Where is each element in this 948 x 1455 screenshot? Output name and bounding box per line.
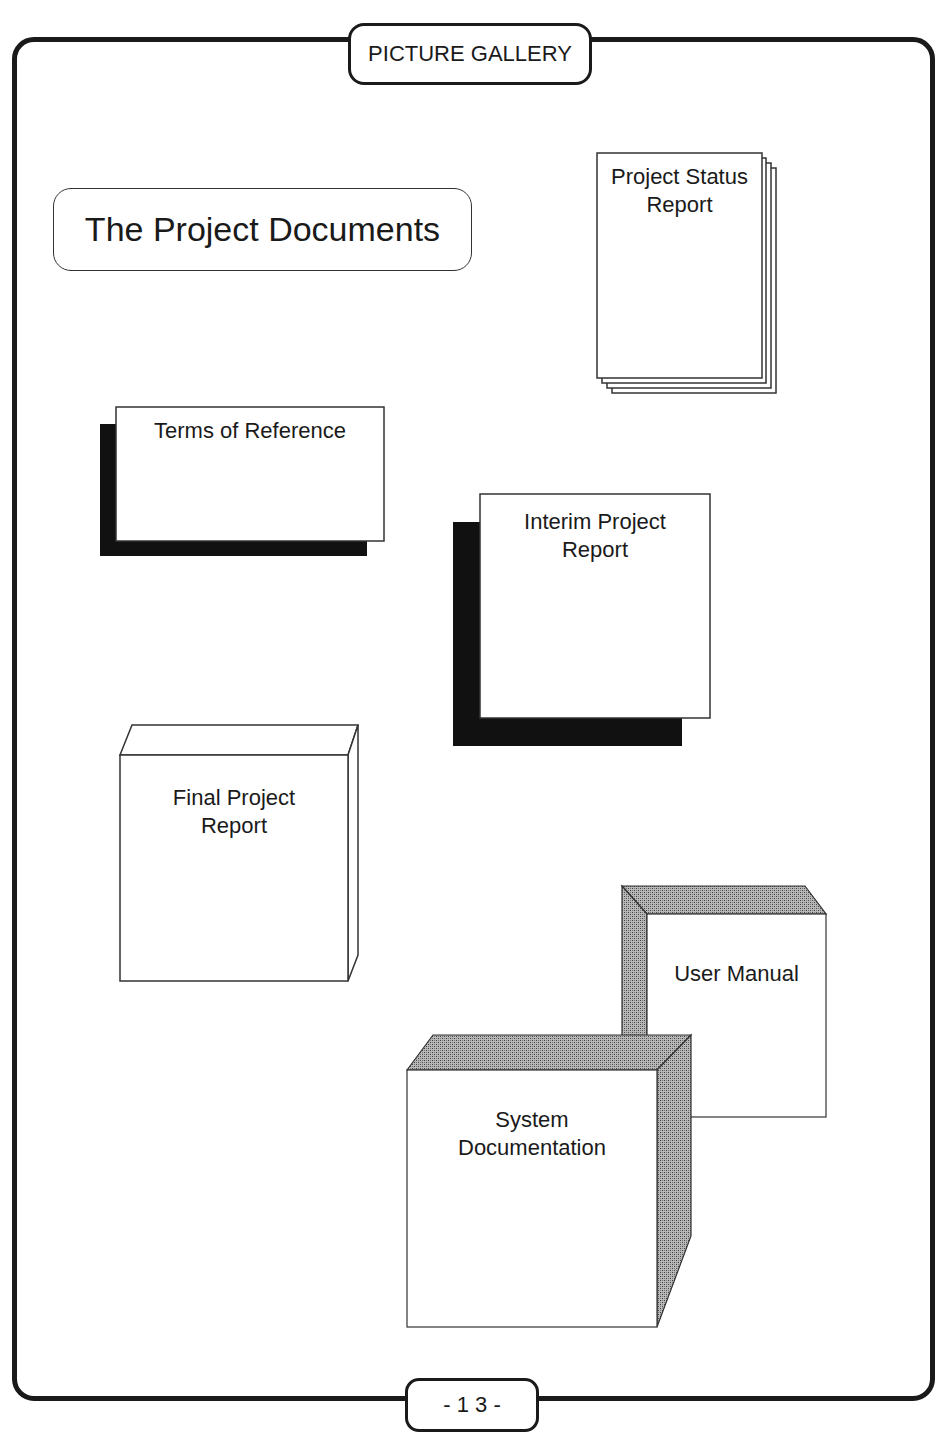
page-header-label: PICTURE GALLERY	[348, 23, 592, 85]
terms-of-reference-label: Terms of Reference	[116, 417, 384, 445]
label-line: Project Status	[597, 163, 762, 191]
final-project-report-label: Final Project Report	[120, 784, 348, 840]
label-line: Report	[597, 191, 762, 219]
label-line: Terms of Reference	[116, 417, 384, 445]
final-project-report-icon	[120, 725, 358, 981]
label-line: Final Project	[120, 784, 348, 812]
interim-project-report-label: Interim Project Report	[480, 508, 710, 564]
label-line: Report	[120, 812, 348, 840]
system-documentation-label: System Documentation	[407, 1106, 657, 1162]
page-title: The Project Documents	[53, 188, 472, 271]
user-manual-label: User Manual	[647, 960, 826, 988]
label-line: Documentation	[407, 1134, 657, 1162]
system-documentation-icon	[407, 1035, 691, 1327]
label-line: System	[407, 1106, 657, 1134]
project-status-report-label: Project Status Report	[597, 163, 762, 219]
page-number: - 1 3 -	[405, 1378, 539, 1432]
label-line: User Manual	[647, 960, 826, 988]
label-line: Interim Project	[480, 508, 710, 536]
label-line: Report	[480, 536, 710, 564]
